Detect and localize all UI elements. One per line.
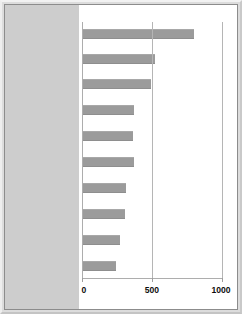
- x-tick-label-0: 0: [82, 285, 87, 295]
- tick-mark-0: [82, 278, 83, 282]
- bar-united-kingdom: [83, 79, 151, 89]
- y-axis-line: [82, 22, 83, 278]
- x-tick-label-500: 500: [145, 285, 159, 295]
- bar-germany: [83, 54, 155, 64]
- tick-mark-1000: [222, 278, 223, 282]
- gridline-1000: [222, 22, 223, 278]
- x-tick-label-1000: 1000: [211, 285, 230, 295]
- bar-china: [83, 157, 134, 167]
- bar-italy: [83, 183, 126, 193]
- gridline-500: [152, 22, 153, 278]
- chart-screenshot: United States Germany United Kingdom Jap…: [0, 0, 242, 314]
- bar-united-states: [83, 29, 194, 39]
- bar-canada: [83, 261, 116, 271]
- bar-japan: [83, 105, 134, 115]
- tick-mark-500: [152, 278, 153, 282]
- bar-spain: [83, 209, 125, 219]
- bar-netherlands: [83, 235, 120, 245]
- bar-france: [83, 131, 133, 141]
- horizontal-bar-chart: United States Germany United Kingdom Jap…: [0, 0, 242, 314]
